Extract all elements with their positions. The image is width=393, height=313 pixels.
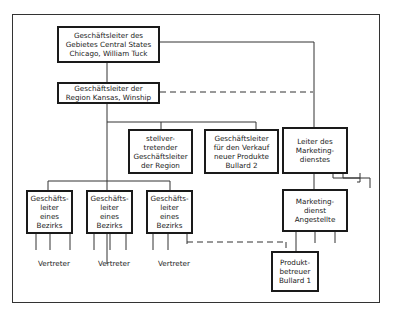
label-vertreter-2: Vertreter bbox=[90, 259, 138, 268]
node-region: Geschäftsleiter der Region Kansas, Winsh… bbox=[57, 82, 160, 104]
node-verkauf: Geschäftsleiter für den Verkauf neuer Pr… bbox=[204, 129, 279, 174]
node-marketing: Leiter des Marketing- dienstes bbox=[282, 127, 348, 174]
node-stellv: stellver- tretender Geschäftsleiter der … bbox=[128, 129, 193, 174]
node-bezirk-3: Geschäfts- leiter eines Bezirks bbox=[146, 190, 193, 234]
node-bezirk-1: Geschäfts- leiter eines Bezirks bbox=[26, 190, 73, 234]
label-vertreter-3: Vertreter bbox=[150, 259, 198, 268]
node-gebiet: Geschäftsleiter des Gebietes Central Sta… bbox=[57, 26, 160, 63]
label-vertreter-1: Vertreter bbox=[30, 259, 78, 268]
node-angestellte: Marketing- dienst Angestellte bbox=[282, 189, 348, 232]
node-bezirk-2: Geschäfts- leiter eines Bezirks bbox=[86, 190, 133, 234]
node-produkt: Produkt- betreuer Bullard 1 bbox=[271, 251, 319, 292]
